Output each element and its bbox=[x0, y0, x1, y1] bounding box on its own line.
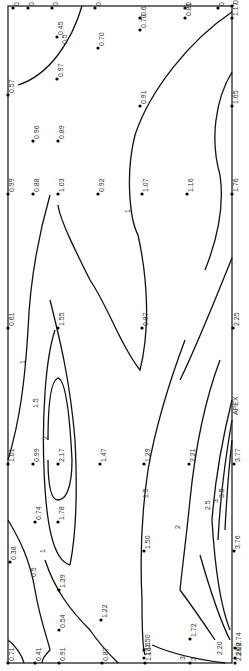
point-value: 0.74 bbox=[35, 506, 42, 520]
data-point: 1.01 bbox=[6, 448, 15, 465]
point-value: 1.22 bbox=[101, 604, 108, 618]
point-value: 0 bbox=[218, 2, 225, 6]
data-point: 0.87 bbox=[100, 647, 109, 664]
contour-line bbox=[18, 6, 82, 85]
point-value: 0.87 bbox=[142, 312, 149, 326]
contour-level-label: 2.20 bbox=[216, 641, 223, 655]
point-value: 0 bbox=[95, 2, 102, 6]
contour-line bbox=[200, 555, 230, 640]
data-point: 1.55 bbox=[56, 312, 65, 329]
point-value: 0.97 bbox=[57, 63, 64, 77]
point-value: 0.99 bbox=[33, 448, 40, 462]
data-point: 0.89 bbox=[56, 125, 65, 142]
data-point: 0.54 bbox=[57, 614, 66, 631]
data-point: 0.96 bbox=[31, 125, 40, 142]
data-point: 2.20 bbox=[233, 647, 242, 664]
point-value: 0.70 bbox=[140, 14, 147, 28]
contour-lines bbox=[8, 6, 232, 663]
point-value: 1.47 bbox=[100, 448, 107, 462]
point-value: 1.17 bbox=[232, 2, 239, 16]
contour-level-label: 0.5 bbox=[61, 34, 68, 44]
data-point: 0.81 bbox=[183, 2, 192, 19]
point-value: 1.16 bbox=[187, 178, 194, 192]
apex-label: APEX bbox=[232, 396, 239, 415]
data-point: 2.17 bbox=[56, 448, 65, 465]
point-value: 0.91 bbox=[140, 90, 147, 104]
data-point: 0.99 bbox=[31, 448, 40, 465]
data-point: 1.16 bbox=[185, 178, 194, 195]
data-point: 0.38 bbox=[8, 546, 17, 563]
contour-level-label: 1 bbox=[39, 549, 46, 553]
point-value: 1.29 bbox=[144, 448, 151, 462]
point-value: 2.25 bbox=[233, 312, 240, 326]
point-value: 0.88 bbox=[33, 178, 40, 192]
point-value: 0.96 bbox=[33, 125, 40, 139]
contour-line bbox=[43, 330, 70, 565]
point-value: 1.16 bbox=[145, 647, 152, 661]
point-value: 0.41 bbox=[35, 647, 42, 661]
point-value: 2.17 bbox=[58, 448, 65, 462]
data-point: 0.88 bbox=[31, 178, 40, 195]
data-point: 1.76 bbox=[230, 178, 239, 195]
contour-figure: 00000000.450.60.700.811.170.700.970.570.… bbox=[0, 0, 249, 671]
point-value: 0.57 bbox=[8, 79, 15, 93]
point-value: 0 bbox=[13, 2, 20, 6]
data-point: 0 bbox=[216, 2, 225, 10]
contour-level-label: 3.5 bbox=[218, 488, 225, 498]
point-value: 0.81 bbox=[185, 2, 192, 16]
data-point: 0.87 bbox=[140, 312, 149, 329]
contour-level-label: 2.5 bbox=[204, 500, 211, 510]
point-value: 3 bbox=[190, 657, 197, 661]
data-point: 0.70 bbox=[138, 14, 147, 31]
data-point: 0 bbox=[93, 2, 102, 10]
point-value: 0.38 bbox=[10, 546, 17, 560]
point-value: 1.01 bbox=[8, 448, 15, 462]
apex-text: APEX bbox=[232, 396, 239, 415]
point-value: 1.03 bbox=[58, 178, 65, 192]
contour-level-label: 1 bbox=[19, 360, 26, 364]
data-point: 1.22 bbox=[99, 604, 108, 621]
point-value: 1.65 bbox=[232, 90, 239, 104]
contour-level-label: 1.5 bbox=[142, 488, 149, 498]
data-point: 1.39 bbox=[57, 574, 66, 591]
data-point: 1.72 bbox=[188, 623, 197, 640]
data-point: 0 bbox=[11, 2, 20, 10]
point-value: 0.71 bbox=[8, 647, 15, 661]
point-value: 0.45 bbox=[57, 21, 64, 35]
contour-level-label: 2 bbox=[42, 436, 49, 440]
contour-level-label: 3 bbox=[179, 656, 186, 660]
contour-line bbox=[180, 590, 215, 640]
contour-line bbox=[50, 300, 76, 565]
point-value: 1.76 bbox=[232, 178, 239, 192]
point-value: 2.20 bbox=[235, 647, 242, 661]
data-point: 0.71 bbox=[6, 647, 15, 664]
point-value: 3.76 bbox=[234, 535, 241, 549]
data-point: 3.76 bbox=[232, 535, 241, 552]
point-value: 0.89 bbox=[58, 125, 65, 139]
data-point: 0.97 bbox=[55, 63, 64, 80]
point-value: 0.70 bbox=[98, 32, 105, 46]
point-value: 0.92 bbox=[98, 178, 105, 192]
data-point: 0.92 bbox=[96, 178, 105, 195]
point-value: 0 bbox=[52, 2, 59, 6]
contour-level-label: 3 bbox=[212, 499, 219, 503]
contour-labels: 0.5111.521.522.533.510.532.20 bbox=[19, 34, 225, 660]
data-point: 0.57 bbox=[6, 79, 15, 96]
data-point: 0.41 bbox=[33, 647, 42, 664]
data-point: 1.65 bbox=[230, 90, 239, 107]
contour-level-label: 0.5 bbox=[30, 567, 37, 577]
data-point: 0.70 bbox=[96, 32, 105, 49]
point-value: 1.50 bbox=[144, 535, 151, 549]
contour-line bbox=[48, 378, 72, 500]
contour-level-label: 1 bbox=[124, 209, 131, 213]
data-point: 1.50 bbox=[142, 535, 151, 552]
data-point: 0.74 bbox=[33, 506, 42, 523]
point-value: 1.72 bbox=[190, 623, 197, 637]
data-point: 2.25 bbox=[231, 312, 240, 329]
data-point: 1.17 bbox=[230, 2, 239, 19]
point-value: 0.61 bbox=[8, 312, 15, 326]
point-value: 0.87 bbox=[102, 647, 109, 661]
point-value: 0.99 bbox=[8, 178, 15, 192]
data-points: 00000000.450.60.700.811.170.700.970.570.… bbox=[6, 0, 242, 665]
data-point: 0.91 bbox=[138, 90, 147, 107]
